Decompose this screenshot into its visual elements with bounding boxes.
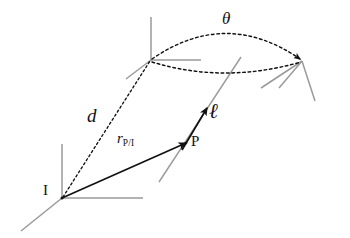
label-axis-line-ell: ℓ [209,101,218,122]
label-point-i: I [43,183,48,198]
axis-down-right [302,61,315,101]
distance-d-dashed-line [63,61,150,197]
point-marker-i [61,197,64,200]
diagram-canvas [0,0,350,238]
label-position-vector-subscript: P/I [123,138,134,148]
frame-axes-at-upper-origin [126,17,201,79]
frame-axes-at-right-vertex [261,61,315,101]
axis-diagonal-upper [126,60,151,79]
label-rotation-angle-theta: θ [222,10,230,27]
position-vector-r-arrow [62,143,186,198]
point-marker-p [185,142,188,145]
rotation-arc-lower-dashed [152,62,301,73]
label-point-p: P [191,134,199,149]
rigid-body-rotation-diagram: I P d rP/I ℓ θ [0,0,350,238]
frame-axes-at-i [21,144,143,231]
label-distance-d: d [87,106,97,125]
rotation-arc-upper-dashed [152,34,300,60]
axis-diagonal-at-i [21,198,62,231]
label-position-vector-r: rP/I [117,131,134,148]
